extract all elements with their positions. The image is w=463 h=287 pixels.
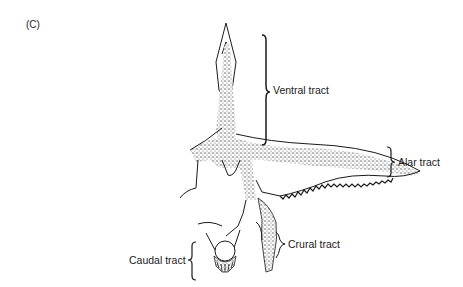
crural-brace bbox=[276, 232, 285, 258]
crural-tract-label: Crural tract bbox=[288, 238, 340, 250]
caudal-brace bbox=[188, 242, 196, 280]
ventral-brace bbox=[262, 35, 270, 145]
caudal-tract-label: Caudal tract bbox=[129, 254, 186, 266]
leg-inner bbox=[226, 200, 262, 240]
ventral-tract-label: Ventral tract bbox=[273, 84, 329, 96]
bird-feather-tract-diagram bbox=[0, 0, 463, 287]
crural-leg bbox=[258, 198, 277, 272]
ventral-tract-area bbox=[216, 43, 236, 148]
alar-fringe bbox=[280, 178, 393, 199]
alar-tract-label: Alar tract bbox=[398, 156, 440, 168]
